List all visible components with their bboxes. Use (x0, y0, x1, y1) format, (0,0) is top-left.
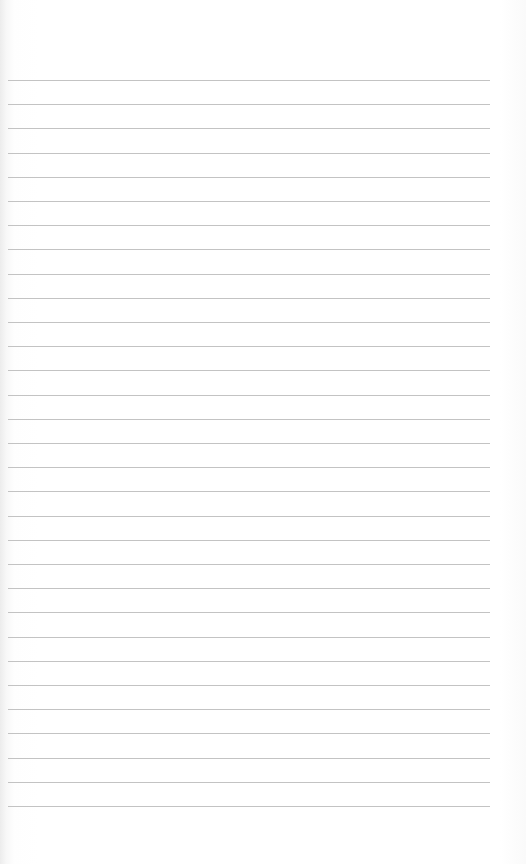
ruled-line (8, 588, 490, 589)
ruled-line (8, 661, 490, 662)
ruled-line (8, 443, 490, 444)
ruled-line (8, 128, 490, 129)
ruled-line (8, 467, 490, 468)
ruled-line (8, 395, 490, 396)
ruled-line (8, 733, 490, 734)
ruled-line (8, 709, 490, 710)
ruled-line (8, 637, 490, 638)
ruled-line (8, 516, 490, 517)
ruled-line (8, 685, 490, 686)
ruled-line (8, 370, 490, 371)
ruled-line (8, 782, 490, 783)
ruled-line (8, 225, 490, 226)
ruled-line (8, 201, 490, 202)
ruled-line (8, 104, 490, 105)
ruled-line (8, 346, 490, 347)
ruled-line (8, 758, 490, 759)
ruled-line (8, 274, 490, 275)
ruled-line (8, 806, 490, 807)
ruled-line (8, 153, 490, 154)
ruled-line (8, 298, 490, 299)
ruled-line (8, 564, 490, 565)
ruled-line (8, 419, 490, 420)
ruled-line (8, 612, 490, 613)
lined-paper-page (0, 0, 526, 864)
ruled-line (8, 80, 490, 81)
ruled-line (8, 491, 490, 492)
ruled-line (8, 177, 490, 178)
ruled-line (8, 322, 490, 323)
ruled-line (8, 249, 490, 250)
ruled-line (8, 540, 490, 541)
